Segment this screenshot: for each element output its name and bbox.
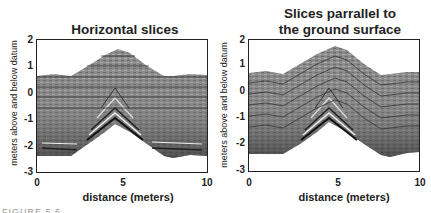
right-ytick: -2 [231,137,245,148]
left-radargram-image [37,40,207,172]
left-ytick: -1 [19,113,33,124]
right-xtick: 0 [239,177,259,188]
figure-caption: FIGURE 5.6 [2,206,61,213]
right-radargram-plot [248,39,420,172]
left-x-axis-label: distance (meters) [48,191,208,203]
right-xtick: 10 [410,177,430,188]
left-ytick: 1 [19,60,33,71]
left-ytick: 0 [19,87,33,98]
right-ytick: -1 [231,111,245,122]
right-xtick: 5 [328,177,348,188]
left-xtick: 5 [113,177,133,188]
left-ytick: 2 [19,34,33,45]
left-radargram-plot [36,39,208,173]
right-ytick: 2 [231,34,245,45]
right-x-axis-label: distance (meters) [264,191,424,203]
left-ytick: -3 [19,166,33,177]
right-chart-title-line2: the ground surface [250,22,430,37]
left-y-axis-label: meters above and below datum [9,33,19,173]
left-chart-title: Horizontal slices [40,22,210,37]
right-ytick: -3 [231,164,245,175]
right-ytick: 1 [231,58,245,69]
right-ytick: 0 [231,85,245,96]
left-xtick: 0 [27,177,47,188]
left-ytick: -2 [19,140,33,151]
right-radargram-image [249,40,419,171]
right-chart-title-line1: Slices parrallel to [250,6,430,21]
left-xtick: 10 [197,177,217,188]
right-y-axis-label: meters above and below datum [219,35,229,175]
